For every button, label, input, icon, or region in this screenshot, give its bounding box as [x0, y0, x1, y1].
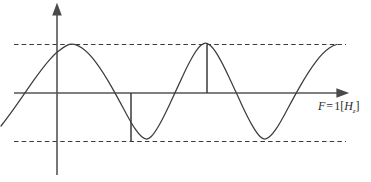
plot-canvas [0, 0, 371, 182]
x-axis-label-bracket-close: ] [356, 99, 360, 113]
sine-wave-figure: F=1[Hz] [0, 0, 371, 182]
x-axis-label: F=1[Hz] [318, 100, 360, 115]
x-axis-label-operator: = [325, 99, 334, 113]
x-axis-label-unit: H [344, 99, 353, 113]
sine-curve [1, 43, 337, 139]
